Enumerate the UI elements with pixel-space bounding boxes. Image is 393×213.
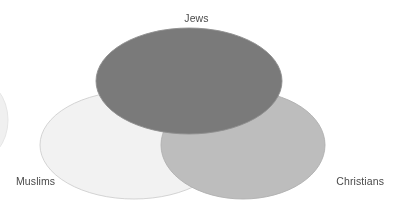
venn-diagram-svg	[0, 0, 393, 213]
venn-label-muslims: Muslims	[16, 175, 55, 187]
venn-label-jews: Jews	[0, 12, 393, 24]
venn-ellipse-jews[interactable]	[96, 28, 282, 134]
venn-diagram-canvas: Jews Muslims Christians	[0, 0, 393, 213]
venn-label-christians: Christians	[336, 175, 384, 187]
